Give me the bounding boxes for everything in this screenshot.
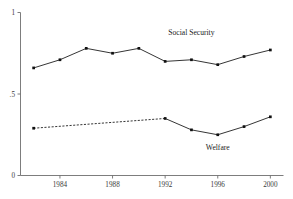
data-point-marker (190, 58, 193, 61)
data-point-marker (138, 47, 141, 50)
x-tick-label: 1992 (158, 181, 173, 189)
y-tick-label: .5 (10, 91, 16, 99)
data-point-marker (269, 49, 272, 52)
chart-canvas: 1.50 19841988199219962000 Social Securit… (0, 0, 293, 199)
x-tick-label: 1996 (211, 181, 226, 189)
series-label-social-security: Social Security (168, 28, 214, 37)
data-point-marker (164, 60, 167, 63)
chart-background (0, 0, 293, 199)
line-chart: 1.50 19841988199219962000 Social Securit… (0, 0, 293, 199)
y-tick-label: 1 (11, 9, 15, 17)
data-point-marker (164, 117, 167, 120)
data-point-marker (59, 58, 62, 61)
x-tick-label: 1984 (53, 181, 68, 189)
data-point-marker (216, 63, 219, 66)
data-point-marker (85, 47, 88, 50)
x-tick-label: 2000 (263, 181, 278, 189)
data-point-marker (111, 52, 114, 55)
x-tick-label: 1988 (105, 181, 120, 189)
data-point-marker (243, 55, 246, 58)
data-point-marker (32, 67, 35, 70)
y-tick-label: 0 (11, 172, 15, 180)
data-point-marker (216, 133, 219, 136)
series-label-welfare: Welfare (206, 143, 230, 152)
data-point-marker (190, 129, 193, 132)
data-point-marker (32, 127, 35, 130)
data-point-marker (243, 125, 246, 128)
data-point-marker (269, 115, 272, 118)
